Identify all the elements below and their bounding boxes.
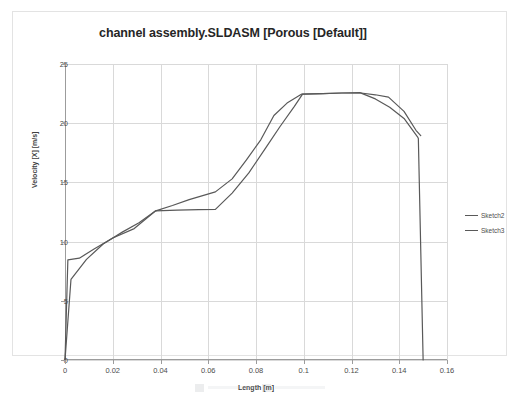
chart-legend: Sketch2Sketch3	[465, 208, 520, 238]
x-axis-tick-label: 0.14	[392, 366, 407, 375]
gridline-vertical	[447, 64, 448, 360]
x-axis-tick	[352, 360, 353, 364]
y-axis-tick	[61, 64, 65, 65]
x-axis-tick-label: 0	[63, 366, 67, 375]
x-axis-tick	[161, 360, 162, 364]
series-lines	[65, 64, 447, 360]
chart-title: channel assembly.SLDASM [Porous [Default…	[13, 26, 453, 40]
y-axis-tick	[61, 182, 65, 183]
legend-item-sketch3[interactable]: Sketch3	[465, 223, 520, 238]
legend-line-icon	[465, 215, 478, 216]
x-axis-tick	[113, 360, 114, 364]
x-axis-tick-label: 0.1	[299, 366, 309, 375]
y-axis-tick	[61, 123, 65, 124]
series-line-sketch3	[65, 93, 423, 360]
x-axis-tick	[447, 360, 448, 364]
x-axis-tick	[65, 360, 66, 364]
y-axis-tick	[61, 242, 65, 243]
x-axis-tick-label: 0.16	[440, 366, 455, 375]
series-line-sketch2	[65, 93, 421, 360]
plot-area	[65, 64, 447, 360]
x-axis-tick	[208, 360, 209, 364]
page-artifact	[195, 383, 325, 392]
x-axis-tick	[304, 360, 305, 364]
artifact-mark	[195, 384, 204, 392]
x-axis-tick-label: 0.02	[105, 366, 120, 375]
x-axis-tick-label: 0.12	[344, 366, 359, 375]
chart-frame: channel assembly.SLDASM [Porous [Default…	[12, 11, 507, 356]
legend-label: Sketch3	[481, 227, 505, 234]
artifact-bar	[208, 386, 258, 389]
legend-line-icon	[465, 230, 478, 231]
x-axis-tick	[256, 360, 257, 364]
x-axis-tick	[399, 360, 400, 364]
y-axis-tick	[61, 301, 65, 302]
legend-item-sketch2[interactable]: Sketch2	[465, 208, 520, 223]
artifact-mark	[262, 384, 271, 392]
chart-page: channel assembly.SLDASM [Porous [Default…	[0, 0, 520, 402]
x-axis-tick-label: 0.06	[201, 366, 216, 375]
x-axis-tick-label: 0.04	[153, 366, 168, 375]
x-axis-tick-label: 0.08	[249, 366, 264, 375]
artifact-bar	[275, 386, 325, 389]
legend-label: Sketch2	[481, 212, 505, 219]
